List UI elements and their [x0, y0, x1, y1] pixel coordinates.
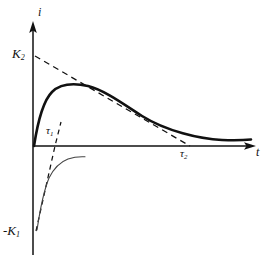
label-tau2-sub: 2	[184, 153, 187, 160]
transient-response-figure	[0, 0, 270, 261]
label-k2-sub: 2	[21, 53, 25, 62]
label-minus-k1-sub: 1	[16, 230, 20, 239]
x-axis	[33, 142, 256, 150]
label-tau1-sub: 1	[50, 130, 53, 137]
label-k2-text: K	[12, 46, 21, 61]
main-response-curve	[34, 84, 251, 146]
label-minus-k1-text: -K	[3, 223, 16, 238]
label-minus-k1: -K1	[3, 224, 20, 239]
x-axis-label: t	[256, 146, 259, 158]
label-tau1: τ1	[46, 125, 53, 137]
label-k2: K2	[12, 47, 25, 62]
lower-response-curve	[37, 157, 85, 230]
label-tau2: τ2	[180, 148, 187, 160]
y-axis-label: i	[38, 6, 41, 18]
